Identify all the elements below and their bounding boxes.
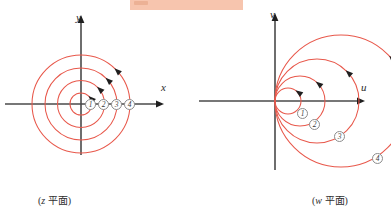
w-plane-axes: [199, 13, 365, 170]
w-plane-caption-text: 平面): [322, 195, 348, 206]
w-plane-caption-variable: w: [315, 195, 322, 206]
z-plane-x-axis-label: x: [161, 82, 166, 93]
z-plane-circle-label: 1: [85, 99, 96, 110]
figure-root: x y u v 1234 1234 (z 平面) (w 平面): [0, 0, 391, 214]
z-plane-caption: (z 平面): [38, 196, 71, 206]
z-plane-x-axis-arrowhead: [156, 101, 164, 108]
w-plane-v-axis-label: v: [270, 9, 275, 20]
z-plane-direction-arrow: [106, 78, 113, 85]
z-plane-direction-arrow: [97, 87, 104, 94]
w-plane-u-axis-label: u: [361, 82, 367, 93]
z-plane-circle-label: 2: [98, 99, 109, 110]
z-plane-axes: [5, 15, 164, 155]
z-plane-caption-text: 平面): [45, 195, 71, 206]
z-plane-y-axis-label: y: [76, 12, 81, 23]
w-plane-direction-arrow: [316, 82, 324, 89]
z-plane-circle-label: 4: [124, 99, 135, 110]
z-plane-direction-arrow: [114, 68, 121, 75]
w-plane-circle-label: 4: [372, 153, 383, 164]
w-plane-direction-arrow: [295, 90, 303, 97]
w-plane-circle-label: 1: [297, 108, 308, 119]
w-plane-circle-label: 3: [334, 131, 345, 142]
w-plane-u-axis-arrowhead: [357, 98, 365, 105]
w-plane-direction-arrow: [346, 70, 353, 77]
w-plane-caption: (w 平面): [312, 196, 348, 206]
z-plane-circle-label: 3: [111, 99, 122, 110]
w-plane-circle-label: 2: [309, 119, 320, 130]
z-plane-panel: [5, 15, 164, 155]
figure-canvas: [0, 0, 391, 214]
w-plane-direction-arrows: [295, 56, 391, 97]
